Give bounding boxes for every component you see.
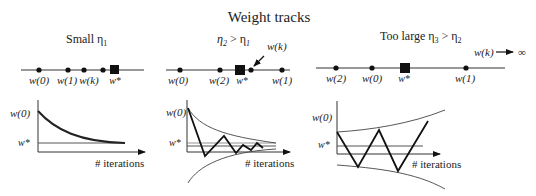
- panel-large-eta: Too large η3 > η2 w(k) ∞ w(2) w(0) w* w(…: [312, 29, 526, 189]
- diagram-title: Weight tracks: [228, 9, 311, 25]
- panel-1-label: Small η1: [66, 32, 107, 48]
- panel-3-label: Too large η3 > η2: [380, 29, 462, 45]
- weight-point-dot: [36, 67, 41, 72]
- optimum-label: w*: [109, 75, 121, 86]
- point-label: w(k): [79, 74, 99, 87]
- point-label: w(0): [362, 72, 383, 85]
- point-label: w(1): [57, 74, 78, 87]
- weight-point-dot: [279, 67, 284, 72]
- point-label: w(1): [455, 72, 476, 85]
- weight-point-dot: [100, 67, 105, 72]
- x-axis-label: # iterations: [245, 157, 294, 169]
- upper-envelope: [337, 110, 445, 132]
- weight-point-dot: [177, 67, 182, 72]
- weight-tracks-diagram: Weight tracks Small η1 w(0) w(1) w(k) w*…: [0, 0, 536, 196]
- panel-small-eta: Small η1 w(0) w(1) w(k) w* w(0) w* # ite…: [10, 32, 145, 169]
- weight-point-dot: [81, 67, 86, 72]
- callout-label: w(k): [267, 40, 287, 53]
- optimum-square: [110, 65, 119, 74]
- x-axis-label: # iterations: [412, 158, 461, 170]
- y-label-w0: w(0): [166, 106, 187, 119]
- panel-2-label: η2 > η1: [217, 32, 250, 48]
- y-label-wstar: w*: [318, 139, 330, 150]
- weight-point-dot: [217, 67, 222, 72]
- point-label: w(1): [272, 74, 293, 87]
- y-label-wstar: w*: [169, 137, 181, 148]
- callout-arrow: [254, 56, 264, 66]
- weight-point-dot: [65, 67, 70, 72]
- point-label: w(0): [29, 74, 50, 87]
- oscillation-track: [188, 108, 263, 156]
- upper-envelope: [188, 108, 276, 143]
- weight-point-dot: [369, 65, 374, 70]
- infinity-label: ∞: [518, 46, 526, 58]
- weight-point-dot: [333, 65, 338, 70]
- optimum-square: [400, 63, 410, 73]
- convergence-curve: [38, 111, 125, 143]
- x-axis-label: # iterations: [95, 157, 144, 169]
- optimum-square: [235, 65, 245, 75]
- point-label: w(2): [326, 72, 347, 85]
- weight-point-dot: [463, 65, 468, 70]
- divergence-label: w(k): [474, 46, 494, 59]
- weight-point-dot: [248, 67, 253, 72]
- y-label-wstar: w*: [18, 137, 30, 148]
- y-label-w0: w(0): [10, 107, 31, 120]
- point-label: w(2): [209, 74, 230, 87]
- optimum-label: w*: [236, 75, 248, 86]
- y-label-w0: w(0): [312, 111, 333, 124]
- optimum-label: w*: [398, 73, 410, 84]
- panel-medium-eta: η2 > η1 w(k) w(0) w(2) w* w(1) w(0) w* #…: [166, 32, 294, 183]
- point-label: w(0): [168, 74, 189, 87]
